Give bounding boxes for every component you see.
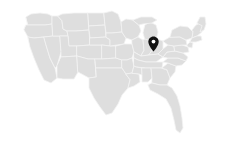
state-wyoming — [67, 30, 90, 46]
state-alabama — [142, 68, 152, 82]
state-oregon — [24, 24, 53, 38]
state-minnesota — [104, 11, 122, 33]
map-pin-icon — [148, 36, 159, 52]
state-new-jersey — [187, 42, 193, 48]
state-north-dakota — [88, 13, 105, 26]
state-florida — [148, 83, 183, 133]
us-map-svg — [0, 0, 227, 144]
state-new-mexico — [77, 56, 96, 78]
state-missouri — [116, 44, 134, 60]
state-montana — [58, 13, 89, 31]
us-location-map: Map of the contiguous United States with… — [0, 0, 227, 144]
state-kansas — [102, 45, 116, 59]
state-arizona — [57, 56, 78, 79]
state-oklahoma — [95, 58, 122, 68]
state-south-dakota — [89, 25, 106, 38]
us-land-group — [24, 11, 206, 133]
state-nebraska — [90, 37, 110, 46]
state-washington — [26, 13, 52, 25]
location-pin[interactable]: Chicago, Illinois — [148, 36, 159, 52]
